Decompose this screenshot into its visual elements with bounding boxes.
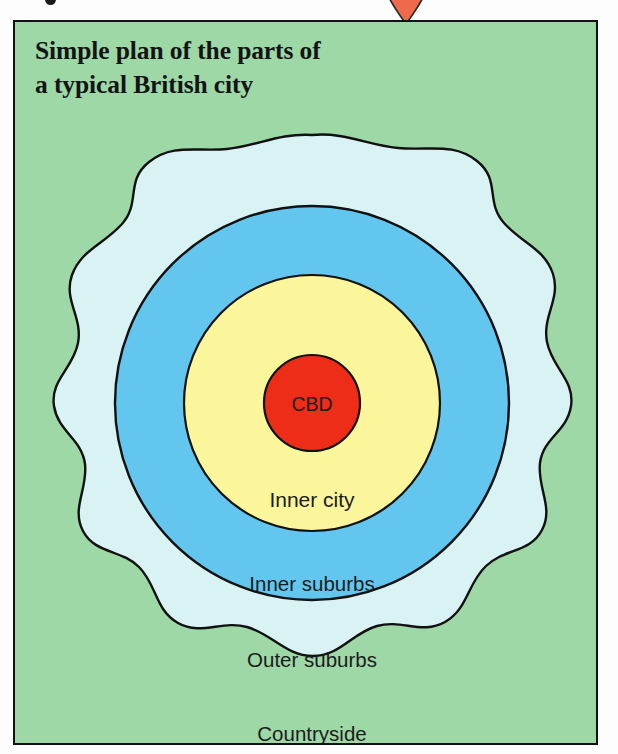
label-cbd: CBD: [291, 393, 332, 416]
figure-screenshot: Simple plan of the parts ofa typical Bri…: [0, 0, 618, 754]
concentric-zone-diagram: [15, 22, 598, 745]
label-inner-suburbs: Inner suburbs: [249, 572, 374, 596]
page-artifact-speck: [45, 0, 56, 5]
label-outer-suburbs: Outer suburbs: [247, 648, 377, 672]
figure-frame: Simple plan of the parts ofa typical Bri…: [13, 20, 598, 745]
label-inner-city: Inner city: [269, 488, 354, 512]
label-countryside: Countryside: [257, 722, 366, 745]
